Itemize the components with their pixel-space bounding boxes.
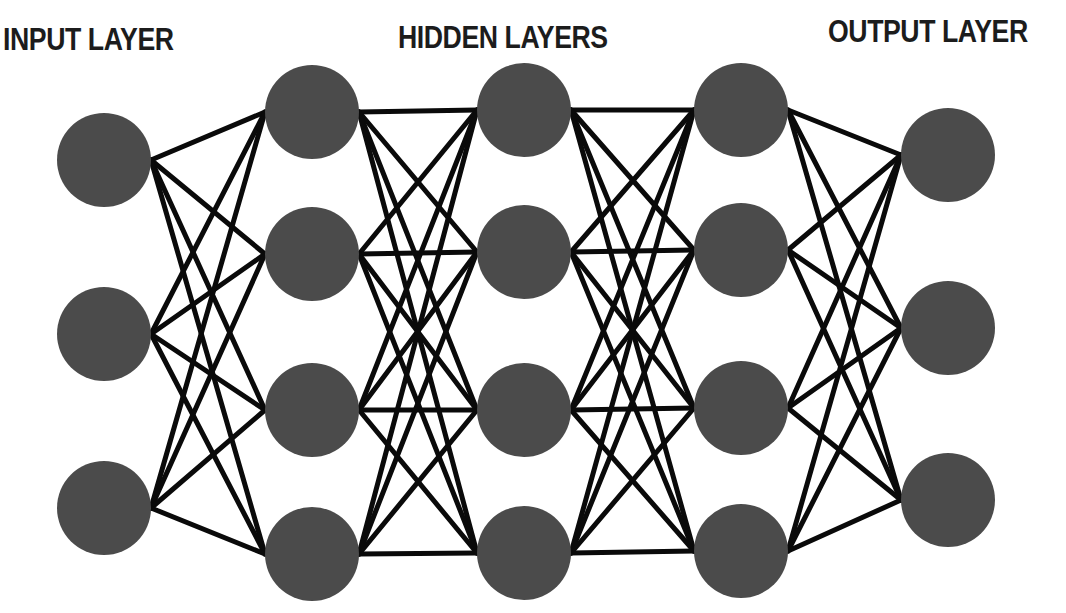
connection-edge <box>571 250 694 252</box>
connection-edge <box>359 553 477 554</box>
connection-edge <box>151 112 265 160</box>
connection-edge <box>359 110 477 112</box>
connection-edge <box>151 508 265 554</box>
input-node-1 <box>57 113 151 207</box>
hidden-3-node-4 <box>694 504 788 598</box>
hidden-2-node-2 <box>477 205 571 299</box>
input-node-2 <box>57 287 151 381</box>
input-node-3 <box>57 461 151 555</box>
hidden-3-node-3 <box>694 361 788 455</box>
hidden-2-node-1 <box>477 63 571 157</box>
connection-edge <box>571 551 694 553</box>
output-node-1 <box>901 108 995 202</box>
output-node-3 <box>901 453 995 547</box>
hidden-2-node-4 <box>477 506 571 600</box>
connection-edge <box>788 500 901 551</box>
connection-edge <box>571 408 694 410</box>
edges-group <box>151 110 901 554</box>
output-node-2 <box>901 281 995 375</box>
connection-edge <box>788 110 901 155</box>
hidden-3-node-2 <box>694 203 788 297</box>
hidden-1-node-1 <box>265 65 359 159</box>
hidden-3-node-1 <box>694 63 788 157</box>
hidden-1-node-4 <box>265 507 359 601</box>
hidden-1-node-2 <box>265 207 359 301</box>
neural-network-diagram: INPUT LAYER HIDDEN LAYERS OUTPUT LAYER <box>0 0 1066 613</box>
network-graph <box>0 0 1066 613</box>
hidden-2-node-3 <box>477 363 571 457</box>
hidden-1-node-3 <box>265 363 359 457</box>
